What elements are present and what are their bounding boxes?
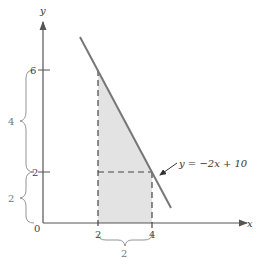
brace-x xyxy=(98,234,152,246)
brace-y-upper-label: 4 xyxy=(8,116,14,127)
x-tick-label-4: 4 xyxy=(149,229,155,240)
y-tick-label-6: 6 xyxy=(30,65,36,76)
brace-y-lower-label: 2 xyxy=(8,193,14,204)
diagram: y x 0 6 2 2 4 4 2 2 y = −2x + 10 xyxy=(0,0,257,269)
brace-y-upper xyxy=(20,70,34,172)
equation-label: y = −2x + 10 xyxy=(178,158,248,169)
brace-y-lower xyxy=(20,172,34,223)
x-tick-label-2: 2 xyxy=(95,229,101,240)
brace-x-label: 2 xyxy=(121,248,127,259)
shaded-area xyxy=(98,70,152,223)
x-axis-label: x xyxy=(247,218,253,229)
annotation-arrow xyxy=(160,163,177,175)
y-tick-label-2: 2 xyxy=(32,167,38,178)
y-axis-label: y xyxy=(39,5,46,16)
origin-label: 0 xyxy=(34,223,40,234)
